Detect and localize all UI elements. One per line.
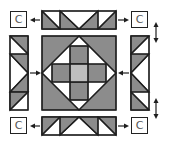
- quilt-diagram: [0, 0, 171, 150]
- arrow-right-icon: [118, 124, 129, 129]
- arrow-left-icon: [118, 71, 129, 76]
- arrow-right-icon: [30, 71, 41, 76]
- double-arrow-vertical-icon: [154, 22, 159, 43]
- top-strip: [42, 11, 116, 29]
- center-block: [42, 36, 116, 110]
- left-strip: [10, 36, 28, 110]
- arrow-left-icon: [30, 18, 40, 23]
- bottom-strip: [42, 117, 116, 135]
- double-arrow-vertical-icon: [154, 98, 159, 119]
- arrow-right-icon: [118, 18, 129, 23]
- right-strip: [131, 36, 149, 110]
- arrow-left-icon: [30, 124, 40, 129]
